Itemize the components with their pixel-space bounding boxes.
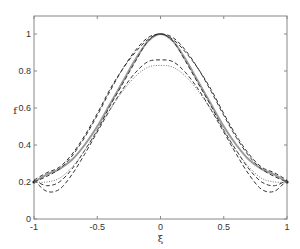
series-line-approx-5 <box>34 65 287 182</box>
x-tick-label: -1 <box>30 222 38 232</box>
x-tick-label: 0.5 <box>217 222 230 232</box>
x-axis: -1-0.500.51 <box>30 16 290 232</box>
x-tick-label: -0.5 <box>89 222 105 232</box>
y-tick-label: 0.8 <box>18 66 31 76</box>
line-chart: -1-0.500.51 00.20.40.60.81 ξ f <box>0 0 300 249</box>
series-line-exact <box>34 34 287 182</box>
series-line-approx-3 <box>34 34 287 186</box>
x-tick-label: 1 <box>284 222 289 232</box>
y-tick-label: 0.2 <box>18 177 31 187</box>
y-tick-label: 1 <box>26 29 31 39</box>
series-line-approx-4 <box>34 60 287 192</box>
series-layer <box>32 34 288 192</box>
y-axis: 00.20.40.60.81 <box>18 29 287 224</box>
y-tick-label: 0.4 <box>18 140 31 150</box>
y-tick-label: 0.6 <box>18 103 31 113</box>
y-tick-label: 0 <box>26 214 31 224</box>
y-axis-label: f <box>13 105 18 116</box>
series-line-approx-2 <box>34 34 287 180</box>
x-tick-label: 0 <box>158 222 163 232</box>
x-axis-label: ξ <box>158 233 164 244</box>
plot-area <box>34 16 287 219</box>
